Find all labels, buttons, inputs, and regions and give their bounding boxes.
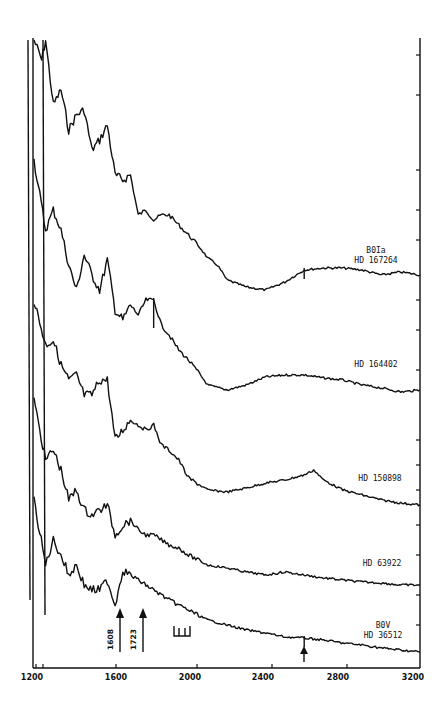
spectrum-label-type: B0V (376, 621, 391, 630)
arrow-1608: 1608 (106, 608, 124, 652)
arrow-2600 (300, 646, 308, 662)
x-tick-label: 1200 (21, 673, 44, 682)
spectrum-label-star: HD 36512 (364, 631, 403, 640)
spectrum-line (34, 159, 420, 393)
x-tick-label: 2400 (252, 673, 275, 682)
arrow-up-icon (116, 608, 124, 618)
x-tick-label: 3200 (402, 673, 425, 682)
spectrum-line (34, 497, 420, 652)
spectra-chart: 1200 1600 2000 2400 2800 3200 B0Ia HD 16… (0, 0, 443, 707)
arrow-up-icon (300, 646, 308, 654)
x-tick-label: 2800 (327, 673, 350, 682)
spectrum-line (34, 40, 420, 291)
arrow-label: 1723 (129, 629, 138, 650)
spectrum-label-star: HD 150898 (358, 474, 402, 483)
x-tick-labels: 1200 1600 2000 2400 2800 3200 (21, 673, 425, 682)
spectrum-label-star: HD 167264 (354, 256, 398, 265)
arrow-up-icon (139, 608, 147, 618)
x-tick-label: 1600 (105, 673, 128, 682)
arrow-1723: 1723 (129, 608, 147, 652)
comb-bracket-marker (174, 626, 190, 636)
spectrum-label-star: HD 63922 (363, 559, 402, 568)
arrow-label: 1608 (106, 629, 115, 650)
spectrum-label-star: HD 164402 (354, 360, 398, 369)
spectrum-label-type: B0Ia (366, 246, 385, 255)
strong-absorption-lines (28, 40, 45, 615)
x-tick-label: 2000 (179, 673, 202, 682)
